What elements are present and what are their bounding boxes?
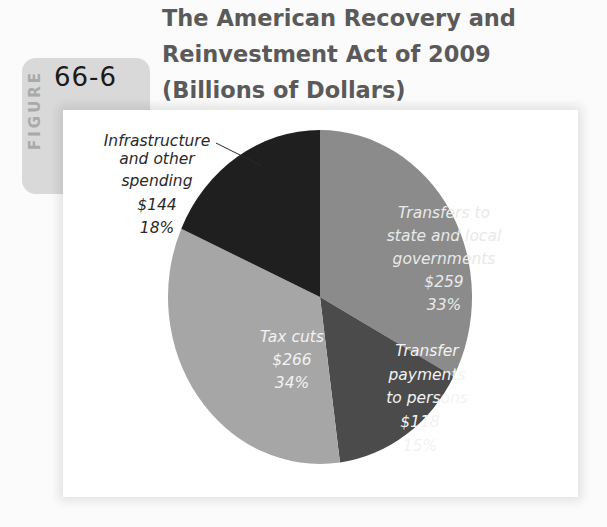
svg-text:15%: 15% — [403, 437, 437, 455]
svg-text:Transfers to: Transfers to — [398, 204, 490, 222]
svg-text:33%: 33% — [427, 296, 461, 314]
svg-text:$259: $259 — [424, 273, 463, 291]
pie-chart: Infrastructure and other spending $144 1… — [0, 0, 607, 527]
svg-text:spending: spending — [121, 172, 192, 190]
svg-text:governments: governments — [393, 250, 496, 268]
svg-text:payments: payments — [387, 366, 465, 384]
svg-text:state and local: state and local — [387, 227, 502, 245]
svg-text:$118: $118 — [400, 413, 440, 431]
svg-text:Infrastructure: Infrastructure — [104, 132, 210, 150]
svg-text:$266: $266 — [272, 351, 312, 369]
svg-text:Transfer: Transfer — [395, 342, 460, 360]
svg-text:and other: and other — [119, 150, 196, 168]
svg-text:Tax cuts: Tax cuts — [260, 328, 324, 346]
svg-text:34%: 34% — [275, 374, 309, 392]
svg-text:$144: $144 — [137, 196, 176, 214]
svg-text:to persons: to persons — [386, 389, 468, 407]
svg-text:18%: 18% — [140, 219, 174, 237]
